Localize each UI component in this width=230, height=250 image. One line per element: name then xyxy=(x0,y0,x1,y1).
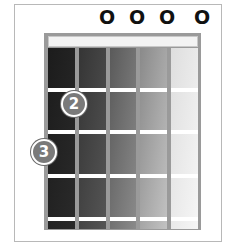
fret-line xyxy=(79,174,106,178)
fret-line xyxy=(171,130,198,134)
fret-line xyxy=(171,88,198,92)
fret-line xyxy=(110,174,136,178)
open-string-marker: O xyxy=(157,7,177,27)
open-string-marker: O xyxy=(97,7,117,27)
nut xyxy=(48,36,198,47)
fret-line xyxy=(79,130,106,134)
string-gap xyxy=(140,48,167,229)
fret-line xyxy=(48,174,75,178)
finger-position-marker: 3 xyxy=(31,139,57,165)
string-gap xyxy=(79,48,106,229)
open-string-marker: O xyxy=(127,7,147,27)
string-gap xyxy=(48,48,75,229)
fret-line xyxy=(140,130,167,134)
fret-line xyxy=(48,130,75,134)
fret-line xyxy=(140,217,167,221)
finger-position-marker: 2 xyxy=(61,91,87,117)
fret-line xyxy=(171,174,198,178)
fret-line xyxy=(140,88,167,92)
fret-line xyxy=(110,88,136,92)
fret-line xyxy=(110,217,136,221)
fret-line xyxy=(48,217,75,221)
fret-line xyxy=(140,174,167,178)
fret-line xyxy=(79,88,106,92)
fret-line xyxy=(110,130,136,134)
string-gap xyxy=(171,48,198,229)
open-string-marker: O xyxy=(192,7,212,27)
fret-line xyxy=(79,217,106,221)
string-gap xyxy=(110,48,136,229)
fret-line xyxy=(171,217,198,221)
